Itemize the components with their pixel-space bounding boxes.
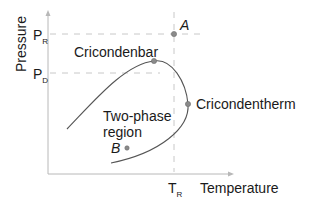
cricondenbar-label: Cricondenbar [74,44,158,60]
y-axis-arrow-icon [46,10,51,16]
two-phase-label-line1: Two-phase [103,108,172,124]
point-b-label: B [111,140,120,156]
pr-tick-label: PR [33,27,48,46]
cricondentherm-label: Cricondentherm [196,96,296,112]
phase-diagram: Pressure PR PD TR Temperature Cricondenb… [0,0,311,203]
point-a-label: A [179,17,189,33]
tr-tick-label: TR [168,180,183,199]
x-axis-arrow-icon [228,172,234,177]
pd-tick-label: PD [33,66,48,85]
axes [46,10,235,177]
cricondentherm-point [185,101,190,106]
y-axis-label: Pressure [13,16,29,72]
two-phase-label-line2: region [103,124,142,140]
x-axis-label: Temperature [200,180,279,196]
point-a [171,31,176,36]
point-b [125,146,129,150]
